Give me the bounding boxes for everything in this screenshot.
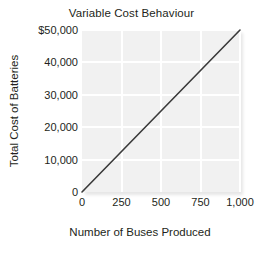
chart-figure: Variable Cost Behaviour Total Cost of Ba…	[0, 0, 263, 253]
plot-area	[82, 30, 240, 192]
y-tick-label: 30,000	[18, 89, 78, 101]
x-axis-title: Number of Buses Produced	[25, 226, 255, 238]
y-tick-label: $50,000	[18, 24, 78, 36]
y-axis-tick-labels: 010,00020,00030,00040,000$50,000	[16, 0, 78, 253]
cost-line-series	[82, 30, 240, 192]
x-tick-label: 1,000	[210, 196, 263, 208]
data-series-layer	[82, 30, 240, 192]
y-tick-label: 20,000	[18, 121, 78, 133]
y-tick-label: 10,000	[18, 154, 78, 166]
y-tick-label: 40,000	[18, 56, 78, 68]
